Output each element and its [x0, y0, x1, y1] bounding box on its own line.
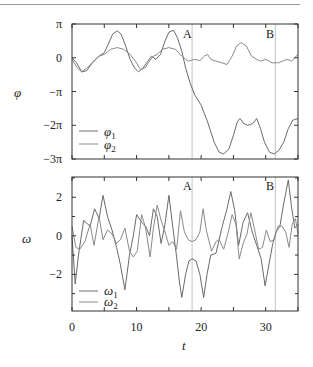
omega-ticks: 20−20102030: [49, 177, 298, 334]
x-tick-label: 0: [69, 320, 75, 334]
y-tick-label: −π: [49, 85, 62, 99]
y-tick-label: π: [56, 17, 62, 31]
y-tick-label: 2: [56, 190, 62, 204]
marker-lines: [192, 24, 275, 159]
x-tick-label: 20: [195, 320, 207, 334]
marker-b-label: B: [266, 27, 274, 41]
phi-axis-label: φ: [14, 85, 21, 100]
marker-a-label: A: [183, 27, 192, 41]
marker-a-label: A: [183, 179, 192, 193]
x-axis-label: t: [182, 338, 186, 353]
phi-legend: φ1 φ2: [79, 124, 116, 154]
omega-axis-label: ω: [22, 231, 31, 246]
y-tick-label: −2π: [43, 118, 62, 132]
marker-b-label: B: [266, 179, 274, 193]
y-tick-label: −3π: [43, 152, 62, 166]
figure: π0−π−2π−3π A B φ φ1 φ2 20−20102030 A B ω…: [0, 0, 313, 367]
y-tick-label: 0: [56, 229, 62, 243]
x-tick-label: 30: [260, 320, 272, 334]
omega-panel: 20−20102030 A B ω t ω1 ω2: [22, 177, 298, 353]
phi-panel: π0−π−2π−3π A B φ φ1 φ2: [14, 17, 298, 166]
x-tick-label: 10: [131, 320, 143, 334]
omega-series: [72, 180, 298, 298]
y-tick-label: 0: [56, 51, 62, 65]
y-tick-label: −2: [49, 267, 62, 281]
series-line-2: [72, 205, 298, 259]
omega-legend: ω1 ω2: [79, 283, 118, 311]
